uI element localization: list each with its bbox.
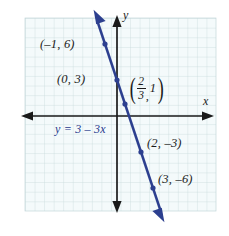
point-label-neg1-6: (–1, 6) bbox=[40, 38, 75, 51]
marker-2-neg3 bbox=[138, 149, 143, 154]
marker-3-neg6 bbox=[150, 185, 155, 190]
left-paren: ( bbox=[130, 74, 136, 103]
marker-0-3 bbox=[114, 77, 119, 82]
fraction-numerator: 2 bbox=[137, 76, 145, 89]
equation-label: y = 3 – 3x bbox=[55, 123, 106, 135]
point-label-0-3: (0, 3) bbox=[57, 73, 85, 86]
point-label-2-neg3: (2, –3) bbox=[147, 137, 182, 150]
point-label-3-neg6: (3, –6) bbox=[158, 173, 193, 186]
marker-two-thirds-1 bbox=[122, 101, 127, 106]
fraction-two-thirds: 2 3 bbox=[137, 76, 146, 102]
x-axis-label: x bbox=[203, 95, 209, 107]
graph-canvas bbox=[0, 0, 229, 236]
fraction-denominator: 3 bbox=[137, 89, 145, 102]
y-axis-label: y bbox=[123, 9, 129, 21]
point-label-two-thirds-one: ( 2 3 , 1 ) bbox=[128, 74, 166, 103]
coordinate-plane-figure: y x (–1, 6) (0, 3) ( 2 3 , 1 ) y = 3 – 3… bbox=[0, 0, 229, 236]
right-paren: ) bbox=[158, 74, 164, 103]
ordered-pair-y-value: 1 bbox=[149, 82, 156, 95]
marker-neg1-6 bbox=[102, 41, 107, 46]
